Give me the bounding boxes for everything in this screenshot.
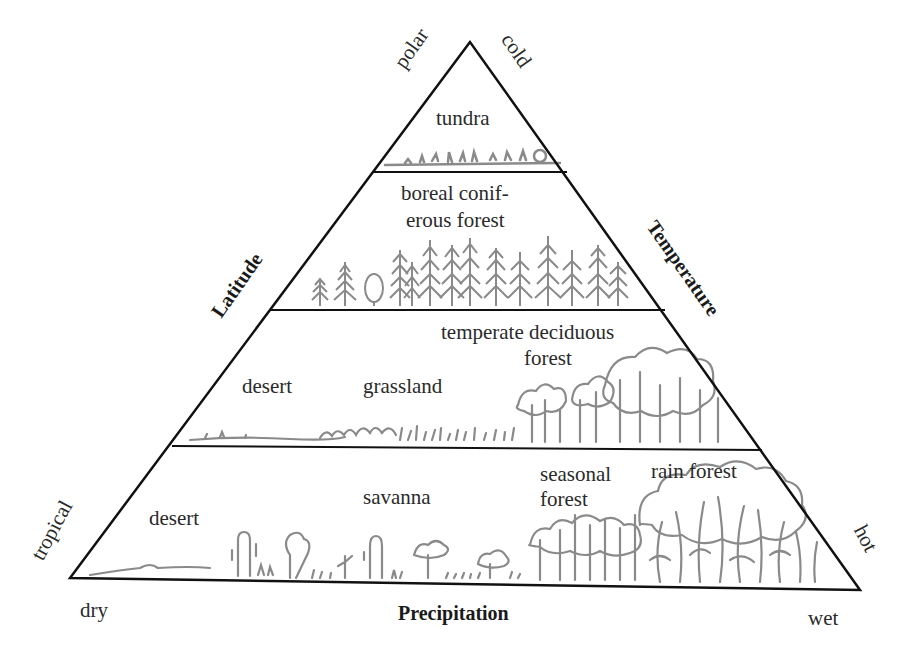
biome-temperate-deciduous-line1: temperate deciduous — [441, 322, 614, 343]
biome-grassland: grassland — [363, 376, 442, 397]
axis-label-precipitation: Precipitation — [398, 603, 509, 623]
tundra-vegetation — [385, 150, 560, 165]
label-dry: dry — [80, 600, 108, 621]
boreal-forest-vegetation — [312, 236, 628, 306]
biome-temperate-desert: desert — [242, 376, 292, 397]
biome-temperate-deciduous-line2: forest — [524, 348, 572, 369]
biome-seasonal-forest-line2: forest — [540, 489, 588, 510]
biome-pyramid-diagram: polar cold tropical hot dry wet Latitude… — [0, 0, 921, 661]
biome-boreal-line1: boreal conif- — [401, 183, 509, 204]
label-wet: wet — [808, 608, 838, 629]
biome-rain-forest: rain forest — [651, 461, 737, 482]
biome-seasonal-forest-line1: seasonal — [540, 464, 611, 485]
biome-boreal-line2: erous forest — [406, 210, 505, 231]
biome-savanna: savanna — [363, 487, 431, 508]
biome-tundra: tundra — [436, 108, 490, 129]
biome-tropical-desert: desert — [149, 508, 199, 529]
